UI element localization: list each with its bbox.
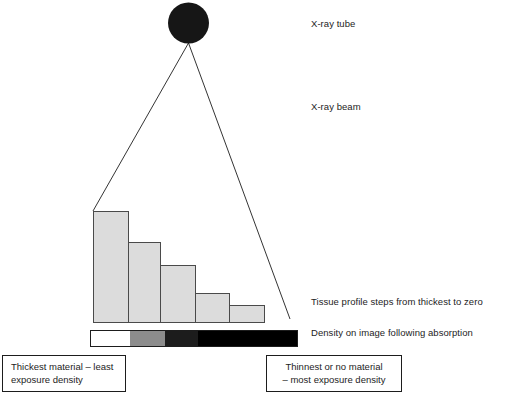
caption-box-thickest-material: Thickest material – least exposure densi… [2, 355, 126, 392]
caption-thickest-line2: exposure density [11, 373, 118, 386]
tissue-profile-bars [94, 212, 265, 323]
density-segment-black [198, 330, 298, 347]
density-segment-white [90, 330, 130, 347]
label-density-on-image: Density on image following absorption [311, 327, 473, 339]
density-segment-gray [130, 330, 165, 347]
caption-box-thinnest-material: Thinnest or no material – most exposure … [266, 355, 402, 392]
beam-right-edge-line [189, 43, 291, 319]
density-segment-dark [165, 330, 198, 347]
tissue-step-bar [161, 266, 196, 323]
caption-thinnest-line2: – most exposure density [272, 373, 396, 386]
beam-left-edge-line [93, 43, 189, 211]
tissue-step-bar [129, 243, 161, 323]
xray-tube-icon [168, 3, 209, 44]
tissue-step-bar [196, 294, 230, 323]
tissue-step-bar [230, 306, 265, 323]
label-tissue-profile: Tissue profile steps from thickest to ze… [311, 296, 483, 308]
caption-thinnest-line1: Thinnest or no material [272, 360, 396, 373]
xray-absorption-diagram: X-ray tube X-ray beam Tissue profile ste… [0, 0, 513, 408]
diagram-canvas [0, 0, 513, 408]
tissue-step-bar [94, 212, 129, 323]
label-xray-tube: X-ray tube [311, 18, 355, 30]
density-strip [90, 330, 298, 347]
label-xray-beam: X-ray beam [311, 101, 361, 113]
caption-thickest-line1: Thickest material – least [11, 360, 118, 373]
